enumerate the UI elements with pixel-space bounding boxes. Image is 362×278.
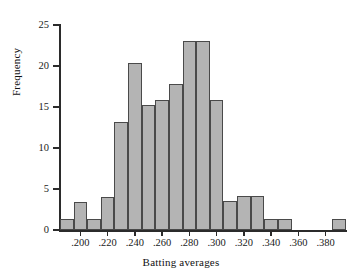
x-tick-label: .240 xyxy=(126,238,144,249)
y-tick xyxy=(53,147,59,148)
x-tick xyxy=(216,230,217,236)
histogram-bar xyxy=(60,219,74,230)
histogram-bar xyxy=(210,100,224,230)
y-tick-label: 15 xyxy=(39,102,50,113)
histogram-bar xyxy=(237,196,251,230)
x-tick xyxy=(161,230,162,236)
histogram-bar xyxy=(101,197,115,230)
histogram-bar xyxy=(74,202,88,230)
x-tick-label: .280 xyxy=(180,238,198,249)
x-tick xyxy=(107,230,108,236)
x-tick-label: .260 xyxy=(153,238,171,249)
histogram-bar xyxy=(155,100,169,230)
y-tick xyxy=(53,106,59,107)
x-tick-label: .340 xyxy=(262,238,280,249)
histogram-bar xyxy=(114,122,128,230)
histogram-bar xyxy=(142,105,156,230)
x-tick xyxy=(298,230,299,236)
x-tick xyxy=(80,230,81,236)
y-tick xyxy=(53,24,59,25)
y-tick-label: 25 xyxy=(39,20,50,31)
y-axis-title: Frequency xyxy=(10,48,22,96)
x-tick xyxy=(243,230,244,236)
histogram-bar xyxy=(223,201,237,230)
y-tick xyxy=(53,65,59,66)
x-tick xyxy=(189,230,190,236)
x-tick-label: .380 xyxy=(316,238,334,249)
x-tick xyxy=(134,230,135,236)
y-tick-label: 10 xyxy=(39,143,50,154)
histogram-bar xyxy=(169,84,183,230)
x-tick xyxy=(325,230,326,236)
histogram-bar xyxy=(251,196,265,230)
histogram-bar xyxy=(278,219,292,230)
histogram-bar xyxy=(264,219,278,230)
y-tick xyxy=(53,188,59,189)
x-tick-label: .220 xyxy=(98,238,116,249)
x-tick-label: .200 xyxy=(71,238,89,249)
x-axis-title: Batting averages xyxy=(0,256,362,268)
x-tick-label: .300 xyxy=(207,238,225,249)
x-axis-line xyxy=(59,230,347,232)
x-tick-label: .320 xyxy=(235,238,253,249)
histogram-bar xyxy=(128,63,142,230)
y-tick xyxy=(53,229,59,230)
y-tick-label: 20 xyxy=(39,61,50,72)
x-tick xyxy=(270,230,271,236)
histogram-figure: 0510152025 .200.220.240.260.280.300.320.… xyxy=(0,0,362,278)
histogram-bar xyxy=(332,219,346,230)
histogram-bar xyxy=(183,41,197,230)
histogram-bar xyxy=(87,219,101,230)
y-tick-label: 0 xyxy=(44,225,49,236)
y-tick-label: 5 xyxy=(44,184,49,195)
y-axis-line xyxy=(59,24,61,231)
histogram-bar xyxy=(196,41,210,230)
x-tick-label: .360 xyxy=(289,238,307,249)
